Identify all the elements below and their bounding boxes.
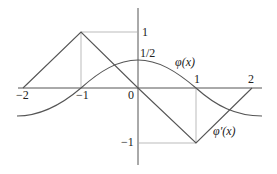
x-tick-label: −2 <box>16 88 29 102</box>
phi-label: φ(x) <box>175 55 195 69</box>
phi-prime-label: φ′(x) <box>213 124 236 138</box>
x-tick-label: 2 <box>248 72 254 86</box>
y-tick-label: 1 <box>142 25 148 39</box>
x-tick-label: −1 <box>76 88 89 102</box>
plot: −2 −1 0 1 2 1 1/2 −1 φ(x) φ′(x) <box>0 0 277 174</box>
y-tick-label: 1/2 <box>140 46 155 60</box>
y-tick-label: −1 <box>121 135 134 149</box>
x-tick-label: 0 <box>128 88 134 102</box>
x-tick-label: 1 <box>194 72 200 86</box>
